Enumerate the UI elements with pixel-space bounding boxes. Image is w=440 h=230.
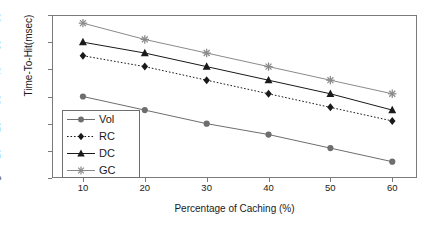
diamond-marker: [142, 63, 149, 71]
asterisk-marker: [202, 49, 210, 57]
circle-marker: [142, 107, 148, 113]
triangle-marker: [77, 149, 85, 156]
series-line: [83, 42, 392, 110]
circle-marker: [80, 93, 86, 99]
legend-key: [63, 111, 99, 128]
asterisk-marker: [388, 90, 396, 98]
diamond-marker: [327, 103, 334, 111]
diamond-marker: [265, 90, 272, 98]
legend-key: [63, 128, 99, 145]
legend-label: RC: [99, 128, 115, 145]
asterisk-marker: [141, 35, 149, 43]
legend-label: Vol: [99, 111, 114, 128]
legend-item-rc[interactable]: RC: [63, 128, 139, 145]
legend: VolRCDCGC: [62, 110, 140, 178]
legend-label: DC: [99, 145, 115, 162]
asterisk-marker: [264, 62, 272, 70]
asterisk-marker: [77, 167, 85, 175]
circle-marker: [389, 159, 395, 165]
legend-label: GC: [99, 162, 116, 179]
diamond-marker: [78, 133, 84, 141]
legend-item-vol[interactable]: Vol: [63, 111, 139, 128]
legend-item-gc[interactable]: GC: [63, 162, 139, 179]
series-line: [83, 23, 392, 94]
circle-marker: [78, 117, 84, 123]
diamond-marker: [80, 52, 87, 60]
legend-key: [63, 145, 99, 162]
diamond-marker: [389, 117, 396, 125]
legend-item-dc[interactable]: DC: [63, 145, 139, 162]
diamond-marker: [203, 76, 210, 84]
series-dc: [79, 38, 396, 113]
circle-marker: [204, 121, 210, 127]
circle-marker: [327, 145, 333, 151]
series-gc: [79, 19, 397, 98]
chart-figure: Time-To-Hit(msec) Percentage of Caching …: [0, 0, 440, 230]
circle-marker: [265, 131, 271, 137]
triangle-marker: [79, 38, 87, 45]
asterisk-marker: [79, 19, 87, 27]
legend-key: [63, 162, 99, 179]
asterisk-marker: [326, 76, 334, 84]
